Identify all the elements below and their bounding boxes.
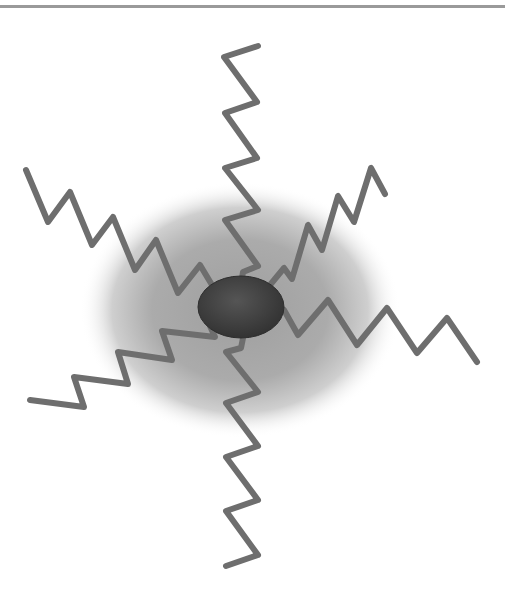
polymer-particle-diagram [0, 0, 505, 596]
core-particle [198, 276, 284, 338]
